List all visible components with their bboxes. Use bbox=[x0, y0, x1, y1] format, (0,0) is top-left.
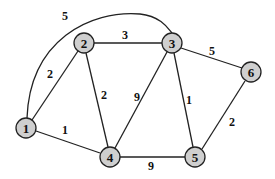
node-label: 2 bbox=[81, 36, 88, 51]
edge-weight-4-5: 9 bbox=[148, 159, 154, 173]
node-6: 6 bbox=[241, 62, 261, 82]
edge-weight-2-4: 2 bbox=[101, 88, 107, 102]
edge-weight-3-4: 9 bbox=[134, 90, 140, 104]
edge-weight-1-3: 5 bbox=[62, 9, 68, 23]
edge-weight-1-4: 1 bbox=[62, 123, 68, 137]
node-2: 2 bbox=[74, 33, 94, 53]
edge-3-4 bbox=[115, 52, 167, 148]
node-label: 6 bbox=[248, 65, 255, 80]
node-3: 3 bbox=[162, 33, 182, 53]
edge-1-4 bbox=[36, 131, 100, 153]
graph-diagram: 5 2 3 5 2 9 1 1 9 2 1 2 3 4 5 6 bbox=[0, 0, 275, 179]
edge-weight-2-3: 3 bbox=[122, 28, 128, 42]
node-4: 4 bbox=[100, 147, 120, 167]
edge-1-3 bbox=[27, 14, 172, 118]
edge-weight-1-2: 2 bbox=[47, 67, 53, 81]
edge-weight-3-6: 5 bbox=[209, 44, 215, 58]
edge-weight-3-5: 1 bbox=[186, 93, 192, 107]
node-label: 1 bbox=[23, 121, 30, 136]
node-label: 5 bbox=[192, 150, 199, 165]
node-1: 1 bbox=[16, 118, 36, 138]
edge-5-6 bbox=[202, 81, 245, 149]
node-label: 4 bbox=[107, 150, 114, 165]
node-label: 3 bbox=[169, 36, 176, 51]
edge-1-2 bbox=[32, 51, 78, 120]
node-5: 5 bbox=[185, 147, 205, 167]
edge-weight-5-6: 2 bbox=[229, 115, 235, 129]
